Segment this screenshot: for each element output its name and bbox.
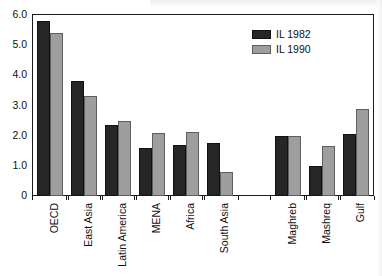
legend-item-label: IL 1990 <box>276 44 311 55</box>
bar-il-1982-oecd <box>37 21 50 196</box>
x-tick-mark <box>168 196 169 200</box>
x-tick-mark <box>340 196 341 200</box>
bar-il-1982-mashreq <box>309 166 322 196</box>
bar-il-1990-maghreb <box>288 136 301 196</box>
legend-swatch-icon <box>252 45 271 54</box>
x-tick-label: MENA <box>150 203 162 233</box>
legend-swatch-icon <box>252 30 271 39</box>
x-tick-mark <box>32 196 33 200</box>
x-tick-mark <box>102 196 103 200</box>
bar-il-1990-south-asia <box>220 172 233 196</box>
x-tick-mark <box>68 196 69 200</box>
y-tick-label: 4.0 <box>12 68 27 80</box>
x-tick-label: South Asia <box>218 203 230 253</box>
y-tick-label: 3.0 <box>12 99 27 111</box>
x-tick-label: Gulf <box>354 203 366 222</box>
x-tick-mark <box>238 196 239 200</box>
x-tick-mark <box>66 196 67 200</box>
bar-il-1982-latin-america <box>105 125 118 196</box>
bar-group <box>309 15 335 196</box>
x-tick-mark <box>100 196 101 200</box>
x-tick-label: OECD <box>48 203 60 233</box>
bar-group <box>105 15 131 196</box>
bar-il-1990-mashreq <box>322 146 335 196</box>
x-axis: OECDEast AsiaLatin AmericaMENAAfricaSout… <box>33 196 373 276</box>
bar-il-1990-oecd <box>50 33 63 196</box>
x-tick-mark <box>306 196 307 200</box>
bar-il-1990-east-asia <box>84 96 97 196</box>
bar-group <box>71 15 97 196</box>
x-tick-label: Mashreq <box>320 203 332 244</box>
x-tick-label: Latin America <box>116 203 128 267</box>
bar-il-1982-south-asia <box>207 143 220 196</box>
x-tick-mark <box>204 196 205 200</box>
legend-item: IL 1982 <box>252 28 311 40</box>
y-tick-label: 0 <box>21 189 27 201</box>
bar-il-1990-mena <box>152 133 165 196</box>
x-tick-mark <box>270 196 271 200</box>
bar-group <box>343 15 369 196</box>
x-tick-mark <box>374 196 375 200</box>
y-tick-label: 2.0 <box>12 129 27 141</box>
x-tick-label: Maghreb <box>286 203 298 244</box>
x-tick-mark <box>202 196 203 200</box>
bar-il-1990-latin-america <box>118 121 131 196</box>
bar-il-1982-mena <box>139 148 152 196</box>
bar-il-1982-gulf <box>343 134 356 196</box>
chart-legend: IL 1982IL 1990 <box>252 28 311 55</box>
bar-il-1982-africa <box>173 145 186 196</box>
bar-group <box>37 15 63 196</box>
y-axis: 01.02.03.04.05.06.0 <box>0 14 32 196</box>
scan-artifact-top <box>150 0 382 8</box>
y-tick-label: 1.0 <box>12 159 27 171</box>
x-tick-mark <box>170 196 171 200</box>
bar-chart: 01.02.03.04.05.06.0 OECDEast AsiaLatin A… <box>0 0 382 276</box>
bar-il-1982-maghreb <box>275 136 288 196</box>
y-tick-label: 6.0 <box>12 8 27 20</box>
scan-artifact-right <box>377 0 382 276</box>
x-tick-mark <box>304 196 305 200</box>
x-tick-mark <box>134 196 135 200</box>
bar-il-1990-africa <box>186 132 199 196</box>
x-tick-mark <box>136 196 137 200</box>
legend-item-label: IL 1982 <box>276 29 311 40</box>
x-tick-mark <box>338 196 339 200</box>
bar-il-1982-east-asia <box>71 81 84 196</box>
bars-layer <box>33 15 373 196</box>
x-tick-label: East Asia <box>82 203 94 247</box>
bar-group <box>207 15 233 196</box>
bar-group <box>173 15 199 196</box>
legend-item: IL 1990 <box>252 43 311 55</box>
bar-group <box>139 15 165 196</box>
x-tick-label: Africa <box>184 203 196 230</box>
y-tick-label: 5.0 <box>12 38 27 50</box>
bar-il-1990-gulf <box>356 109 369 196</box>
